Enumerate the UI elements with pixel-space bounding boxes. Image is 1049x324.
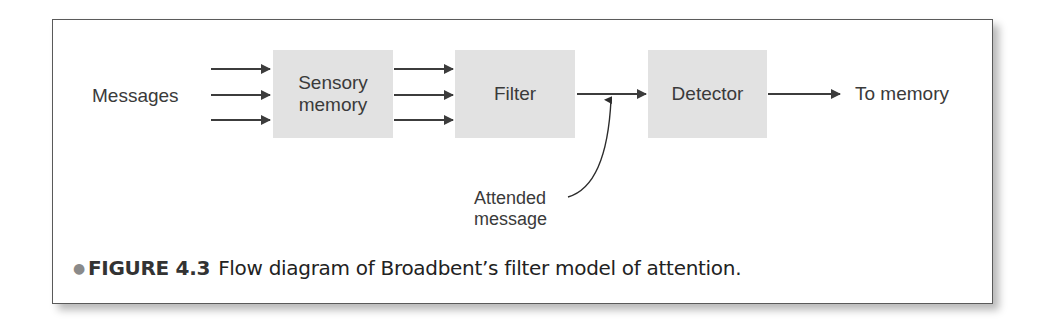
figure-number: FIGURE 4.3: [88, 256, 210, 280]
sensory-memory-label-line1: Sensory: [298, 72, 368, 94]
messages-label: Messages: [92, 85, 179, 107]
caption-bullet-icon: ●: [73, 260, 85, 276]
attended-label-line1: Attended: [474, 188, 547, 209]
filter-label: Filter: [494, 83, 536, 105]
detector-label: Detector: [672, 83, 744, 105]
attended-label-line2: message: [474, 209, 547, 230]
sensory-memory-box: Sensory memory: [273, 50, 393, 138]
sensory-memory-label-line2: memory: [298, 94, 368, 116]
detector-box: Detector: [648, 50, 767, 138]
to-memory-label: To memory: [855, 83, 949, 105]
attended-message-label: Attended message: [474, 188, 547, 230]
caption-text: Flow diagram of Broadbent’s filter model…: [218, 256, 741, 280]
figure-caption: ●FIGURE 4.3Flow diagram of Broadbent’s f…: [73, 256, 741, 280]
filter-box: Filter: [455, 50, 575, 138]
